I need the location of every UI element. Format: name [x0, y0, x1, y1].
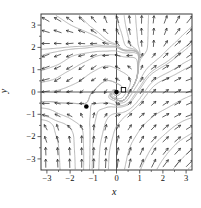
- field-arrow: [153, 16, 156, 24]
- field-arrow: [56, 148, 59, 156]
- field-arrow: [164, 16, 167, 24]
- field-arrow: [105, 136, 108, 143]
- x-tick-label: −1: [89, 173, 98, 183]
- field-arrow: [91, 66, 96, 70]
- field-arrow: [78, 42, 85, 45]
- y-tick-label: 1: [31, 65, 35, 75]
- field-arrow: [128, 136, 131, 143]
- field-arrow: [80, 90, 84, 93]
- field-arrow: [128, 66, 132, 69]
- field-arrow: [174, 78, 181, 82]
- field-arrow: [140, 148, 144, 155]
- field-arrow: [54, 30, 62, 33]
- field-arrow: [140, 40, 143, 46]
- field-arrow: [105, 148, 108, 156]
- phase-portrait-figure: −3−2−10123−3−2−10123 x y: [0, 0, 201, 208]
- field-arrow: [151, 113, 156, 117]
- x-tick-label: −3: [42, 173, 51, 183]
- field-arrow: [152, 148, 156, 155]
- field-arrow: [162, 114, 169, 118]
- field-arrow: [174, 90, 180, 93]
- field-arrow: [67, 78, 73, 82]
- field-arrow: [175, 28, 180, 34]
- field-arrow: [68, 136, 71, 143]
- field-arrow: [80, 159, 83, 168]
- field-arrow: [152, 53, 156, 57]
- y-tick-label: 3: [31, 20, 35, 30]
- square-marker: [121, 88, 125, 92]
- field-arrow: [44, 136, 47, 142]
- field-arrow: [127, 54, 133, 57]
- field-arrow: [56, 124, 59, 130]
- streamline: [37, 51, 138, 101]
- field-arrow: [152, 28, 155, 35]
- field-arrow: [115, 114, 120, 116]
- field-arrow: [162, 78, 169, 81]
- streamline: [173, 145, 198, 169]
- field-arrow: [91, 17, 96, 23]
- x-tick-label: 3: [184, 173, 188, 183]
- field-arrow: [42, 17, 49, 21]
- streamline: [37, 55, 137, 101]
- equilibrium-point: [84, 104, 89, 109]
- x-tick-label: −2: [66, 173, 75, 183]
- field-arrow: [68, 159, 71, 168]
- field-arrow: [163, 160, 169, 167]
- field-arrow: [140, 125, 144, 131]
- field-arrow: [128, 16, 131, 24]
- field-arrow: [93, 113, 96, 118]
- field-arrow: [140, 136, 144, 143]
- x-tick-label: 1: [138, 173, 142, 183]
- field-arrow: [54, 42, 61, 45]
- field-arrow: [56, 159, 59, 167]
- field-arrow: [129, 159, 132, 168]
- field-arrow: [140, 89, 143, 94]
- y-tick-label: 2: [31, 42, 35, 52]
- y-tick-label: −3: [26, 154, 35, 164]
- streamline: [37, 47, 139, 101]
- field-arrow: [164, 41, 168, 47]
- field-arrow: [141, 65, 143, 70]
- field-arrow: [66, 42, 74, 45]
- field-arrow: [91, 78, 96, 81]
- field-arrow: [140, 16, 143, 24]
- field-arrow: [66, 17, 73, 22]
- field-arrow: [80, 102, 84, 105]
- field-arrow: [117, 136, 120, 144]
- y-tick-label: −2: [26, 131, 35, 141]
- field-arrow: [104, 16, 107, 23]
- field-arrow: [80, 136, 83, 143]
- field-arrow: [104, 89, 107, 93]
- field-arrow: [44, 125, 47, 131]
- field-arrow: [152, 40, 155, 47]
- y-tick-label: −1: [26, 109, 35, 119]
- phase-portrait-canvas: −3−2−10123−3−2−10123: [0, 0, 201, 208]
- field-arrow: [117, 148, 120, 156]
- field-arrow: [67, 102, 73, 105]
- field-arrow: [151, 125, 156, 130]
- field-arrow: [152, 89, 156, 93]
- streamline: [37, 108, 83, 174]
- field-arrow: [151, 137, 156, 143]
- field-arrow: [139, 113, 144, 118]
- field-arrow: [67, 114, 72, 117]
- field-arrow: [79, 65, 85, 69]
- field-arrow: [105, 159, 108, 168]
- field-arrow: [140, 28, 143, 35]
- field-arrow: [104, 113, 107, 117]
- field-arrow: [80, 148, 83, 156]
- field-arrow: [163, 102, 169, 106]
- field-arrow: [66, 30, 73, 33]
- x-tick-label: 2: [161, 173, 165, 183]
- field-arrow: [79, 54, 85, 57]
- field-arrow: [42, 102, 50, 105]
- field-arrow: [42, 30, 50, 33]
- field-arrow: [163, 137, 169, 143]
- field-arrow: [54, 54, 61, 57]
- field-arrow: [176, 16, 180, 23]
- field-arrow: [117, 159, 120, 168]
- field-arrow: [151, 101, 156, 105]
- field-arrow: [68, 147, 71, 155]
- streamline: [188, 159, 198, 169]
- field-arrow: [42, 42, 50, 45]
